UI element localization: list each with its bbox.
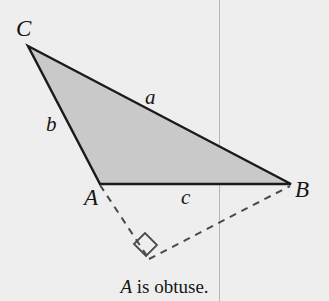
caption-rest: is obtuse. <box>132 276 209 297</box>
caption: A is obtuse. <box>118 276 208 297</box>
figure-root: C A B a b c A is obtuse. <box>0 0 329 301</box>
vertex-label-b: B <box>295 177 309 202</box>
side-label-c: c <box>181 185 191 209</box>
side-label-a: a <box>145 85 156 109</box>
side-label-b: b <box>46 112 57 136</box>
vertex-label-c: C <box>16 16 32 41</box>
triangle-diagram-canvas: C A B a b c A is obtuse. <box>0 0 329 301</box>
caption-subject: A <box>118 276 132 297</box>
vertex-label-a: A <box>82 185 99 210</box>
